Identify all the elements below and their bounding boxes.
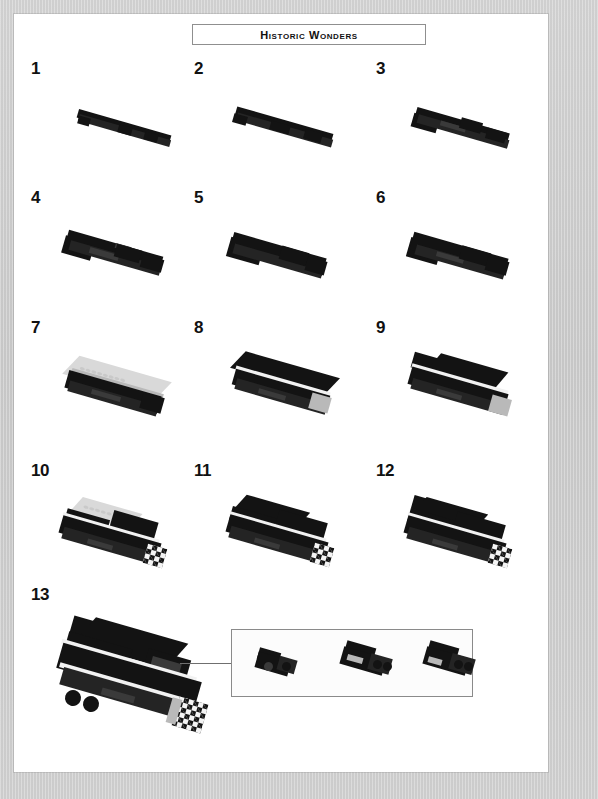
step-12: 12 [376, 462, 394, 479]
step-8: 8 [194, 319, 203, 336]
step-10-model [49, 500, 194, 585]
step-1: 1 [31, 60, 40, 77]
step-8-number: 8 [194, 319, 203, 336]
step-11-checker [310, 543, 335, 568]
step-6-number: 6 [376, 189, 385, 206]
step-3-number: 3 [376, 60, 385, 77]
step-12-checker [488, 544, 513, 569]
instruction-page: Historic Wonders 1 2 [14, 14, 548, 772]
step-2-number: 2 [194, 60, 203, 77]
step-grid: 1 2 3 [14, 14, 548, 772]
step-5-number: 5 [194, 189, 203, 206]
step-1-number: 1 [31, 60, 40, 77]
step-8-model [218, 357, 358, 429]
step-13: 13 [31, 586, 49, 603]
step-11-number: 11 [194, 462, 211, 479]
step-5: 5 [194, 189, 203, 206]
callout-sub-step-3 [422, 642, 492, 684]
step-4-number: 4 [31, 189, 40, 206]
step-6-model [400, 229, 530, 289]
step-13-number: 13 [31, 586, 49, 603]
step-3: 3 [376, 60, 385, 77]
step-12-model [394, 498, 544, 586]
step-10: 10 [31, 462, 49, 479]
step-7-number: 7 [31, 319, 40, 336]
step-2: 2 [194, 60, 203, 77]
step-11-model [216, 498, 361, 583]
step-12-number: 12 [376, 462, 394, 479]
step-3-model [404, 102, 529, 160]
callout-sub-step-2 [337, 642, 407, 684]
page-title-plate: Historic Wonders [192, 24, 426, 45]
callout-leader-line [180, 663, 232, 664]
step-10-checker [143, 544, 168, 569]
step-5-model [218, 229, 348, 289]
step-6: 6 [376, 189, 385, 206]
step-2-model [224, 104, 349, 159]
step-1-model [66, 104, 186, 154]
step-11: 11 [194, 462, 211, 479]
step-4-model [55, 227, 185, 289]
step-7: 7 [31, 319, 40, 336]
step-10-number: 10 [31, 462, 49, 479]
step-9-model [396, 355, 541, 433]
step-13-model [49, 620, 259, 750]
step-7-model [51, 359, 191, 429]
sub-assembly-callout [231, 629, 473, 697]
step-9-number: 9 [376, 319, 385, 336]
step-9: 9 [376, 319, 385, 336]
callout-sub-step-1 [252, 646, 312, 682]
step-4: 4 [31, 189, 40, 206]
page-title: Historic Wonders [260, 29, 358, 41]
